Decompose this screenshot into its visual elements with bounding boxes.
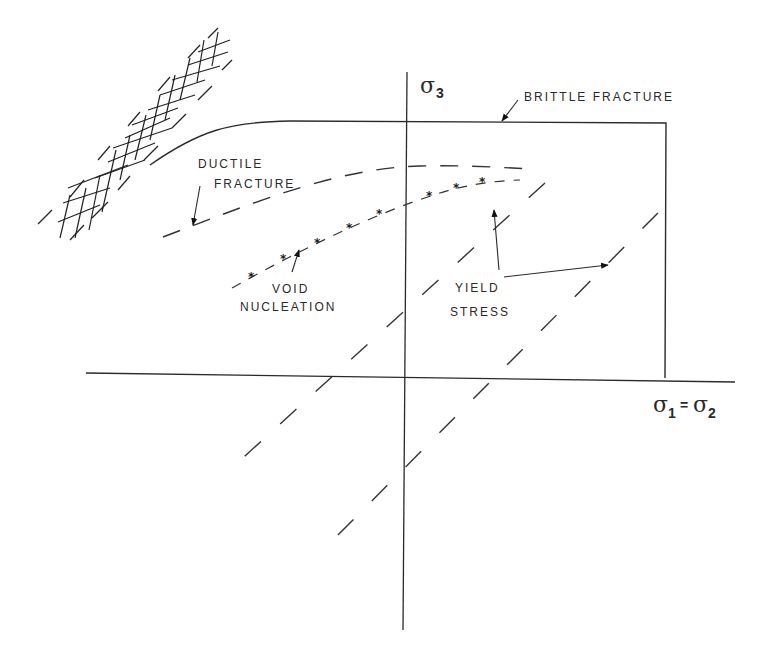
hatched-region <box>38 28 232 240</box>
yield-stress-label-line1: YIELD <box>455 281 500 295</box>
yield-stress-pointer-right <box>504 265 608 277</box>
sigma-3-subscript: 3 <box>436 85 444 101</box>
void-nucleation-markers: * * * * * * * * <box>248 175 486 284</box>
void-nucleation-label-line1: VOID <box>272 282 309 296</box>
yield-stress-label-line2: STRESS <box>450 305 510 319</box>
ductile-fracture-label-line1: DUCTILE <box>198 157 263 171</box>
sigma-1-subscript: 1 <box>668 405 676 421</box>
vertical-axis <box>403 72 407 630</box>
brittle-fracture-label: BRITTLE FRACTURE <box>524 90 674 104</box>
equals-sign: = <box>680 397 688 413</box>
sigma-3-symbol: σ <box>420 73 435 98</box>
ductile-fracture-pointer <box>193 186 200 225</box>
ductile-fracture-label-line2: FRACTURE <box>214 177 295 191</box>
void-nucleation-pointer <box>292 250 299 272</box>
star-marker: * <box>314 236 321 250</box>
star-marker: * <box>479 175 486 189</box>
void-nucleation-label-line2: NUCLEATION <box>240 300 336 314</box>
axes <box>86 72 735 630</box>
sigma-1-symbol: σ <box>653 392 668 417</box>
horizontal-axis <box>86 373 735 382</box>
star-marker: * <box>376 207 383 221</box>
brittle-fracture-pointer <box>502 100 518 121</box>
void-nucleation-curve <box>232 180 520 288</box>
star-marker: * <box>453 181 460 195</box>
star-marker: * <box>248 270 255 284</box>
vertical-axis-label: σ 3 <box>420 73 444 101</box>
star-marker: * <box>426 189 433 203</box>
stress-space-diagram: σ 3 σ 1 = σ 2 BRITTLE FRACTURE DUCTILE F… <box>0 0 772 667</box>
sigma-2-symbol: σ <box>693 392 708 417</box>
yield-stress-pointer-up <box>494 210 499 270</box>
yield-stress-line-left <box>235 183 545 465</box>
star-marker: * <box>280 252 287 266</box>
star-marker: * <box>346 221 353 235</box>
horizontal-axis-label: σ 1 = σ 2 <box>653 392 716 421</box>
sigma-2-subscript: 2 <box>708 405 716 421</box>
